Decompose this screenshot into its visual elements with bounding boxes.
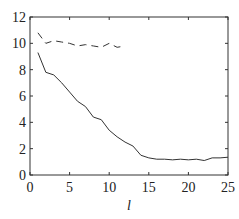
line-chart: 0510152025024681012l: [0, 0, 239, 219]
chart-canvas: 0510152025024681012l: [0, 0, 239, 219]
series-dashed: [38, 33, 125, 47]
y-tick-label: 12: [12, 10, 26, 25]
y-tick-label: 8: [19, 63, 26, 78]
x-tick-label: 25: [221, 180, 235, 195]
y-tick-label: 6: [19, 89, 26, 104]
y-tick-label: 0: [19, 168, 26, 183]
y-tick-label: 4: [19, 115, 26, 130]
y-tick-label: 2: [19, 142, 26, 157]
x-tick-label: 0: [27, 180, 34, 195]
series-solid: [38, 53, 228, 161]
y-tick-label: 10: [12, 36, 26, 51]
plot-frame: [30, 17, 228, 175]
x-tick-label: 15: [142, 180, 156, 195]
x-tick-label: 5: [66, 180, 73, 195]
x-axis-label: l: [127, 198, 131, 213]
x-tick-label: 20: [181, 180, 195, 195]
x-tick-label: 10: [102, 180, 116, 195]
